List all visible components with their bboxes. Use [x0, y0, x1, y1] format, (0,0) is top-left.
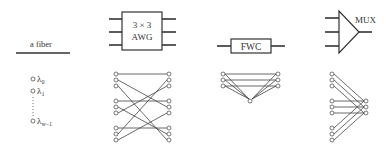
wavelength-label-last: λw−1 — [37, 116, 52, 127]
fwc-wiring — [221, 72, 280, 103]
awg-label-line1: 3 × 3 — [133, 20, 152, 30]
mux-label: MUX — [355, 15, 377, 25]
awg-symbol: 3 × 3 AWG — [109, 12, 176, 50]
fwc-converter-node — [248, 99, 252, 103]
mux-wiring — [330, 72, 368, 142]
fwc-symbol: FWC — [217, 39, 285, 53]
wavelength-label-0: λ0 — [37, 74, 44, 85]
awg-label-line2: AWG — [132, 32, 153, 42]
wavelength-node-last — [31, 119, 35, 123]
awg-wiring — [114, 72, 171, 142]
wavelength-legend: λ0 λ1 λw−1 — [31, 74, 52, 127]
awg-right-nodes — [167, 72, 171, 142]
wdm-components-diagram: a fiber λ0 λ1 λw−1 3 × 3 AWG — [0, 0, 386, 160]
awg-left-nodes — [114, 72, 118, 142]
wavelength-node-1 — [31, 89, 35, 93]
fiber-legend: a fiber — [16, 39, 70, 53]
wavelength-node-0 — [31, 77, 35, 81]
fwc-label: FWC — [241, 42, 262, 52]
awg-box — [122, 12, 162, 50]
mux-symbol: MUX — [325, 11, 377, 53]
fiber-label: a fiber — [30, 39, 52, 49]
wavelength-label-1: λ1 — [37, 86, 44, 97]
